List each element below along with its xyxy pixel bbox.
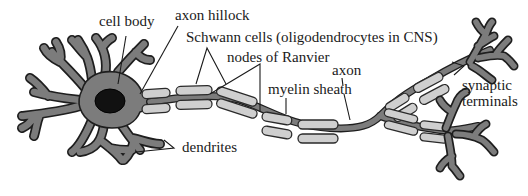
label-myelin-sheath: myelin sheath <box>268 81 352 97</box>
label-nodes-of-ranvier: nodes of Ranvier <box>227 49 329 65</box>
label-synaptic-terminals-1: synaptic <box>462 77 512 93</box>
label-axon: axon <box>332 62 362 78</box>
nucleus <box>95 89 125 113</box>
label-cell-body: cell body <box>99 13 155 29</box>
label-dendrites: dendrites <box>182 139 237 155</box>
label-schwann-cells: Schwann cells (oligodendrocytes in CNS) <box>186 29 438 46</box>
label-synaptic-terminals-2: terminals <box>462 93 518 109</box>
label-axon-hillock: axon hillock <box>175 7 250 23</box>
neuron-diagram: cell body axon hillock Schwann cells (ol… <box>0 0 528 196</box>
